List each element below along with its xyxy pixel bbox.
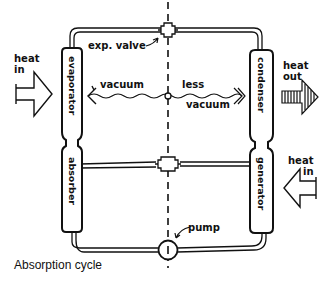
- pump-label: pump: [188, 222, 220, 233]
- generator-heat-label-2: in: [303, 166, 314, 177]
- center-node: [165, 93, 171, 99]
- heat-out-label-2: out: [283, 71, 302, 82]
- heat-out-arrow-condenser: [282, 80, 318, 114]
- right-arrowhead: [234, 88, 245, 104]
- heat-out-label-1: heat: [283, 60, 309, 71]
- expansion-valve: [158, 23, 178, 37]
- left-arrowhead: [88, 86, 96, 104]
- figure-caption: Absorption cycle: [14, 258, 102, 272]
- expansion-valve-pointer: [146, 38, 158, 46]
- generator-label: generator: [256, 157, 267, 211]
- less-vacuum-label: vacuum: [186, 99, 230, 110]
- middle-valve: [155, 157, 181, 171]
- pump: [159, 241, 178, 260]
- condenser-label: condenser: [256, 57, 267, 113]
- absorber-label: absorber: [67, 157, 78, 205]
- less-label: less: [182, 79, 204, 90]
- absorption-cycle-diagram: pump evaporator absorber condenser gener…: [0, 0, 331, 286]
- heat-in-arrow-evaporator: [16, 72, 52, 116]
- evaporator-label: evaporator: [67, 56, 78, 116]
- heat-in-label-1: heat: [14, 53, 40, 64]
- vacuum-label: vacuum: [100, 79, 144, 90]
- heat-in-label-2: in: [14, 64, 25, 75]
- expansion-valve-label: exp. valve: [88, 40, 146, 51]
- generator-heat-label-1: heat: [288, 155, 314, 166]
